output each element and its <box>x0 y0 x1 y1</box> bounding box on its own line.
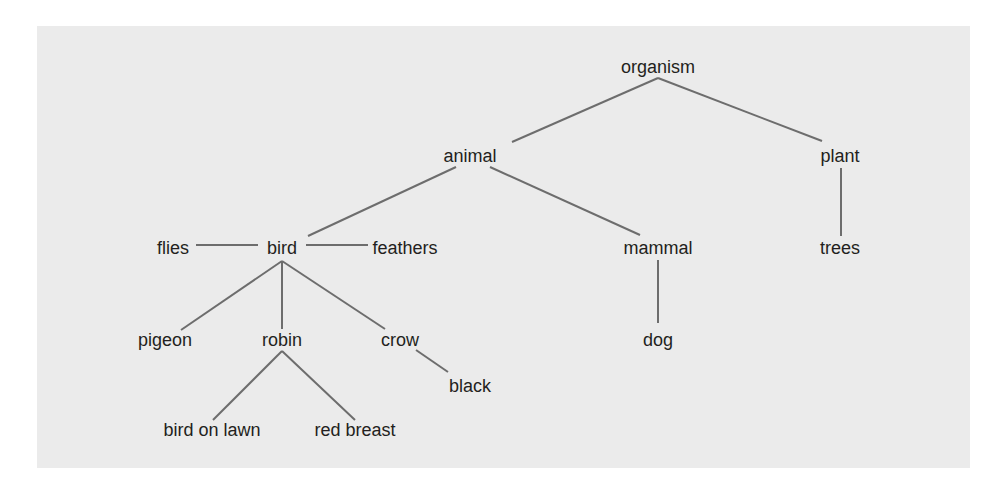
node-plant: plant <box>820 147 859 165</box>
edge-line <box>213 351 282 420</box>
node-mammal: mammal <box>623 239 692 257</box>
edge-line <box>181 261 282 330</box>
node-feathers: feathers <box>372 239 437 257</box>
node-flies: flies <box>157 239 189 257</box>
edge-line <box>282 351 355 420</box>
node-red-breast: red breast <box>314 421 395 439</box>
edge-line <box>282 261 385 329</box>
node-animal: animal <box>443 147 496 165</box>
edge-line <box>490 167 640 235</box>
edge-line <box>658 78 822 141</box>
node-bird-on-lawn: bird on lawn <box>163 421 260 439</box>
edge-line <box>416 350 448 372</box>
node-robin: robin <box>262 331 302 349</box>
node-dog: dog <box>643 331 673 349</box>
node-trees: trees <box>820 239 860 257</box>
node-pigeon: pigeon <box>138 331 192 349</box>
node-organism: organism <box>621 58 695 76</box>
node-crow: crow <box>381 331 419 349</box>
node-black: black <box>449 377 491 395</box>
edge-line <box>512 78 658 142</box>
edge-line <box>308 167 456 236</box>
node-bird: bird <box>267 239 297 257</box>
